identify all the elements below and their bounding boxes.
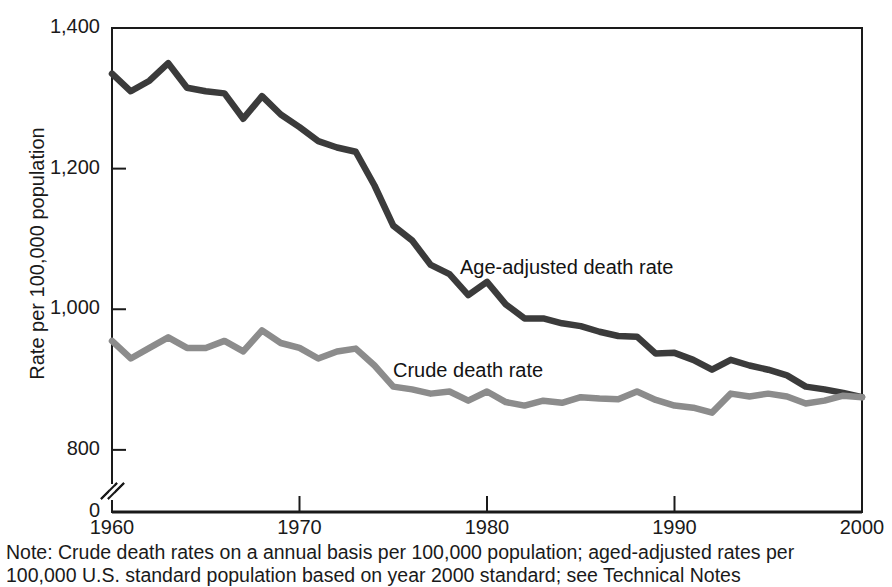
chart-note-line-1: Note: Crude death rates on a annual basi… [6, 541, 890, 564]
y-tick-label-1400: 1,400 [14, 15, 100, 38]
y-tick-label-1000: 1,000 [14, 296, 100, 319]
y-axis-title: Rate per 100,000 population [26, 89, 49, 419]
y-tick-label-1200: 1,200 [14, 156, 100, 179]
annotation-crude-death-rate: Crude death rate [393, 359, 543, 382]
x-tick-label-1960: 1960 [52, 516, 172, 539]
chart-note: Note: Crude death rates on a annual basi… [6, 541, 890, 587]
chart-note-line-2: 100,000 U.S. standard population based o… [6, 564, 890, 587]
x-tick-label-1990: 1990 [615, 516, 735, 539]
y-tick-label-800: 800 [14, 437, 100, 460]
x-tick-label-1970: 1970 [240, 516, 360, 539]
x-tick-label-2000: 2000 [802, 516, 892, 539]
annotation-age-adjusted-death-rate: Age-adjusted death rate [460, 256, 674, 279]
x-tick-label-1980: 1980 [427, 516, 547, 539]
